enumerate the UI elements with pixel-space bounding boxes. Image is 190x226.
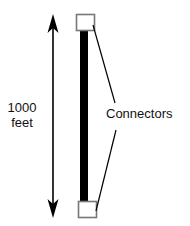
leader-line-top xyxy=(93,25,115,103)
top-connector xyxy=(77,15,95,31)
cable xyxy=(80,30,88,201)
leader-line-bottom xyxy=(96,130,116,211)
distance-label: 1000 feet xyxy=(4,100,40,130)
distance-unit: feet xyxy=(4,115,40,130)
double-arrow xyxy=(48,14,59,218)
bottom-connector xyxy=(79,202,97,218)
distance-value: 1000 xyxy=(4,100,40,115)
connectors-label: Connectors xyxy=(106,106,186,121)
